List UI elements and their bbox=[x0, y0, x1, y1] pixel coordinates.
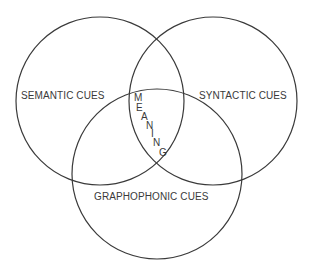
semantic-circle bbox=[16, 17, 184, 185]
meaning-letter: G bbox=[159, 147, 167, 158]
semantic-cues-label: SEMANTIC CUES bbox=[21, 90, 105, 101]
graphophonic-circle bbox=[72, 89, 242, 259]
meaning-label: M E A N I N G bbox=[134, 92, 167, 158]
syntactic-cues-label: SYNTACTIC CUES bbox=[199, 90, 287, 101]
graphophonic-cues-label: GRAPHOPHONIC CUES bbox=[94, 191, 209, 202]
syntactic-circle bbox=[129, 17, 297, 185]
venn-diagram: SEMANTIC CUES SYNTACTIC CUES GRAPHOPHONI… bbox=[0, 0, 313, 272]
